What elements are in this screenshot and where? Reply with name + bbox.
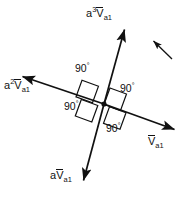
angle-label-bottom-left: 90° <box>64 101 79 112</box>
label-a3-v-a1: a3Va1 <box>86 8 112 19</box>
label-v-a1: Va1 <box>148 136 164 147</box>
origin-dot <box>101 101 106 106</box>
rotation-arrow-icon <box>154 41 173 59</box>
angle-label-bottom: 90° <box>106 123 121 134</box>
angle-label-right: 90° <box>120 83 135 94</box>
angle-label-top-left: 90° <box>75 63 90 74</box>
phasor-diagram: a3Va1 a2Va1 Va1 aVa1 90° 90° 90° 90° <box>0 0 190 197</box>
label-a-v-a1: aVa1 <box>50 170 72 181</box>
right-angle-mark-top-left <box>76 80 99 103</box>
label-a2-v-a1: a2Va1 <box>4 80 30 91</box>
diagram-canvas <box>0 0 190 197</box>
